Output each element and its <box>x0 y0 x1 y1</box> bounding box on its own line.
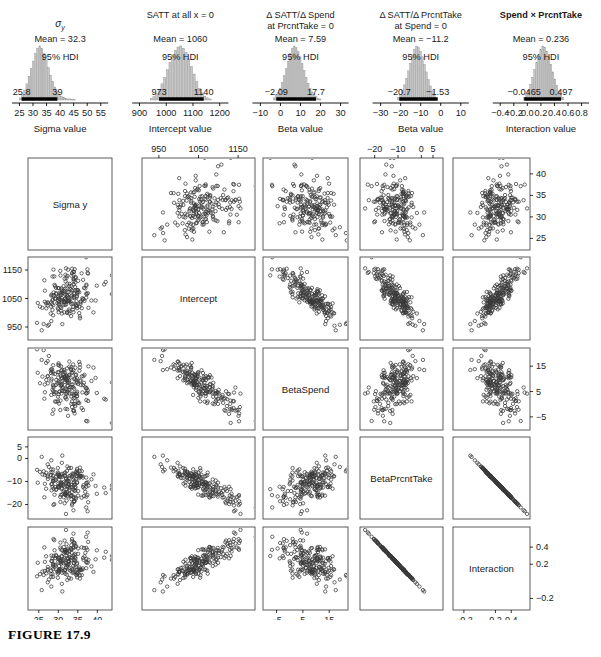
data-point <box>507 420 510 423</box>
data-point <box>163 239 166 242</box>
panel-title: Spend × PrcntTake <box>500 10 582 20</box>
data-point <box>42 470 45 473</box>
data-point <box>181 199 184 202</box>
data-point <box>172 201 175 204</box>
data-point <box>223 188 226 191</box>
data-point <box>372 221 375 224</box>
data-point <box>221 193 224 196</box>
data-point <box>40 588 43 591</box>
points-group <box>269 256 349 332</box>
scatter-panel-3-1 <box>142 437 257 519</box>
data-point <box>165 368 168 371</box>
data-point <box>43 397 46 400</box>
data-point <box>412 374 415 377</box>
data-point <box>45 307 48 310</box>
data-point <box>94 484 97 487</box>
data-point <box>400 184 403 187</box>
data-point <box>271 506 274 509</box>
data-point <box>60 582 63 585</box>
scatter-panel-3-2 <box>263 437 348 519</box>
data-point <box>519 419 522 422</box>
data-point <box>87 306 90 309</box>
histogram-bar <box>209 99 211 100</box>
data-point <box>380 231 383 234</box>
data-point <box>237 204 240 207</box>
data-point <box>487 176 490 179</box>
data-point <box>66 414 69 417</box>
data-point <box>176 211 179 214</box>
y-tick-label: 40 <box>536 169 546 179</box>
data-point <box>153 588 156 591</box>
data-point <box>507 173 510 176</box>
data-point <box>517 408 520 411</box>
histogram-bar <box>412 56 414 100</box>
data-point <box>309 230 312 233</box>
data-point <box>80 272 83 275</box>
x-tick-label: 50 <box>82 108 92 118</box>
points-group <box>363 156 425 242</box>
data-point <box>326 196 329 199</box>
data-point <box>270 493 273 496</box>
data-point <box>78 369 81 372</box>
histogram-bar <box>39 46 41 100</box>
data-point <box>294 231 297 234</box>
data-point <box>81 278 84 281</box>
hdi-low-label: −2.09 <box>265 87 288 97</box>
x-tick-label: 0.2 <box>535 108 548 118</box>
data-point <box>165 223 168 226</box>
data-point <box>398 179 401 182</box>
data-point <box>59 269 62 272</box>
data-point <box>385 163 388 166</box>
variable-label: Interaction <box>469 563 514 574</box>
data-point <box>476 376 479 379</box>
data-point <box>95 492 98 495</box>
data-point <box>509 231 512 234</box>
data-point <box>51 308 54 311</box>
x-tick-label: −20 <box>393 108 409 118</box>
x-tick-label: 5 <box>430 144 435 154</box>
data-point <box>299 267 302 270</box>
histogram-bar <box>424 64 426 100</box>
histogram-bar <box>69 99 71 100</box>
posterior-and-pairs-plot: σyMean = 32.395% HDI25.83925303540455055… <box>0 0 601 620</box>
x-tick-label: 1000 <box>156 108 176 118</box>
panel-title: σy <box>55 18 65 32</box>
data-point <box>286 489 289 492</box>
data-point <box>185 235 188 238</box>
data-point <box>61 454 64 457</box>
x-tick-label: 1050 <box>188 144 208 154</box>
data-point <box>95 549 98 552</box>
data-point <box>160 578 163 581</box>
y-tick-label: −0.2 <box>536 593 554 603</box>
mean-label: Mean = 0.236 <box>513 34 569 44</box>
data-point <box>327 182 330 185</box>
data-point <box>276 495 279 498</box>
data-point <box>80 546 83 549</box>
points-group <box>363 528 425 593</box>
data-point <box>415 376 418 379</box>
data-point <box>415 312 418 315</box>
histogram-bar <box>302 63 304 100</box>
variable-label: BetaSpend <box>282 384 329 395</box>
data-point <box>278 485 281 488</box>
histogram-bar <box>37 48 39 100</box>
hdi-low-label: −20.7 <box>388 87 411 97</box>
data-point <box>43 391 46 394</box>
data-point <box>286 552 289 555</box>
histogram-bar <box>150 98 152 100</box>
data-point <box>391 412 394 415</box>
data-point <box>61 590 64 593</box>
diagonal-panel-2-2: BetaSpend <box>263 348 348 430</box>
data-point <box>512 206 515 209</box>
data-point <box>159 359 162 362</box>
data-point <box>317 469 320 472</box>
data-point <box>53 493 56 496</box>
data-point <box>378 201 381 204</box>
data-point <box>418 319 421 322</box>
x-tick-label: 0 <box>278 108 283 118</box>
mean-label: Mean = 32.3 <box>34 34 85 44</box>
data-point <box>525 267 528 270</box>
data-point <box>334 588 337 591</box>
scatter-panel-4-3 <box>360 527 443 610</box>
data-point <box>511 402 514 405</box>
